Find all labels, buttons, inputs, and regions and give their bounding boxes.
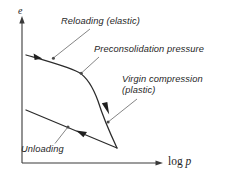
leader-reloading — [52, 29, 90, 60]
y-axis — [19, 16, 24, 163]
annotation-unloading: Unloading — [21, 144, 64, 155]
leader-virgin-compression — [107, 99, 137, 124]
annotation-virgin-compression: Virgin compression(plastic) — [122, 74, 203, 96]
leader-unloading — [55, 126, 70, 144]
annotation-reloading: Reloading (elastic) — [61, 16, 140, 27]
consolidation-curve-figure: e log p Reloading (elastic) Preconsolida… — [0, 0, 229, 180]
annotation-virgin-compression-line2: (plastic) — [122, 85, 155, 95]
annotation-virgin-compression-line1: Virgin compression — [122, 74, 203, 84]
x-axis — [22, 160, 163, 165]
y-axis-label: e — [18, 5, 22, 16]
compression-curve — [26, 53, 117, 148]
x-axis-label-variable: p — [186, 155, 192, 167]
x-axis-label: log p — [168, 155, 191, 167]
annotation-preconsolidation-pressure: Preconsolidation pressure — [94, 44, 204, 55]
x-axis-label-prefix: log — [168, 155, 186, 167]
leader-preconsolidation — [80, 57, 99, 75]
